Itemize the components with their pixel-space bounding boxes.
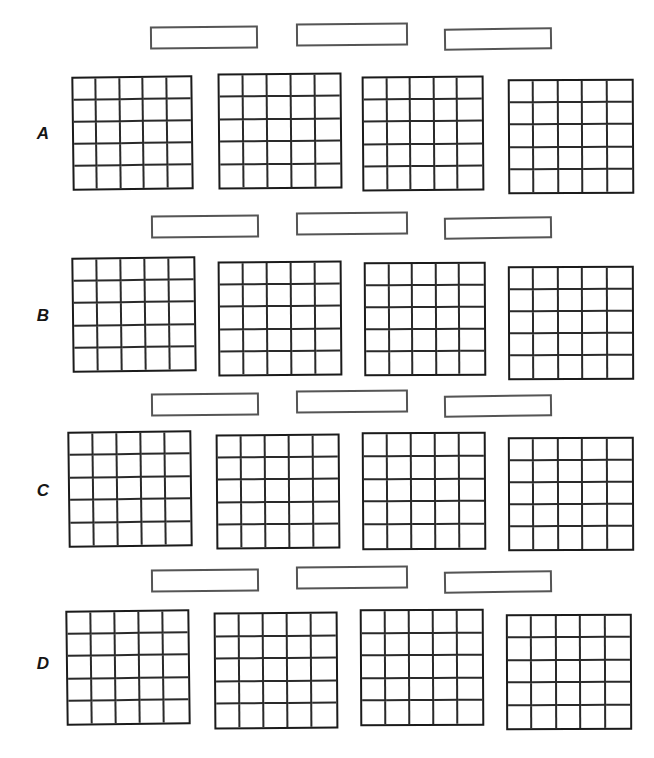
- grid-cell[interactable]: [240, 704, 264, 727]
- grid-cell[interactable]: [608, 312, 632, 334]
- grid-cell[interactable]: [458, 144, 482, 166]
- grid-cell[interactable]: [140, 656, 164, 678]
- grid-cell[interactable]: [559, 125, 584, 147]
- grid-cell[interactable]: [145, 259, 169, 281]
- grid-cell[interactable]: [216, 637, 240, 660]
- grid-cell[interactable]: [121, 122, 145, 144]
- caption-box-c-1[interactable]: [151, 392, 259, 416]
- grid-cell[interactable]: [216, 659, 240, 682]
- grid-cell[interactable]: [68, 657, 92, 679]
- grid-cell[interactable]: [312, 659, 336, 682]
- grid-cell[interactable]: [74, 144, 98, 166]
- grid-cell[interactable]: [583, 483, 607, 505]
- grid-cell[interactable]: [167, 121, 191, 143]
- grid-cell[interactable]: [73, 78, 97, 100]
- grid-cell[interactable]: [581, 661, 605, 683]
- grid-cell[interactable]: [74, 348, 98, 370]
- grid-cell[interactable]: [268, 97, 292, 120]
- grid-b-1[interactable]: [71, 256, 196, 373]
- grid-cell[interactable]: [216, 682, 240, 705]
- grid-c-4[interactable]: [508, 437, 634, 551]
- grid-cell[interactable]: [386, 679, 410, 702]
- grid-cell[interactable]: [410, 611, 434, 634]
- grid-cell[interactable]: [240, 682, 264, 705]
- grid-cell[interactable]: [220, 143, 244, 166]
- grid-cell[interactable]: [607, 81, 632, 103]
- grid-cell[interactable]: [436, 502, 460, 525]
- grid-cell[interactable]: [169, 258, 193, 280]
- grid-cell[interactable]: [434, 78, 458, 100]
- grid-cell[interactable]: [292, 119, 316, 142]
- grid-cell[interactable]: [122, 303, 146, 325]
- grid-cell[interactable]: [364, 525, 388, 548]
- grid-cell[interactable]: [168, 165, 192, 187]
- grid-cell[interactable]: [163, 611, 187, 633]
- grid-cell[interactable]: [167, 99, 191, 121]
- grid-cell[interactable]: [268, 164, 292, 187]
- grid-cell[interactable]: [146, 281, 170, 303]
- grid-cell[interactable]: [608, 125, 633, 147]
- grid-cell[interactable]: [557, 683, 581, 705]
- grid-cell[interactable]: [316, 263, 340, 285]
- grid-cell[interactable]: [292, 164, 316, 187]
- grid-cell[interactable]: [92, 679, 116, 701]
- grid-cell[interactable]: [605, 616, 629, 638]
- grid-cell[interactable]: [606, 705, 630, 727]
- grid-cell[interactable]: [458, 656, 482, 679]
- grid-cell[interactable]: [97, 259, 121, 281]
- grid-cell[interactable]: [218, 458, 242, 480]
- grid-cell[interactable]: [316, 329, 340, 351]
- grid-cell[interactable]: [413, 286, 437, 308]
- grid-cell[interactable]: [268, 352, 292, 374]
- grid-cell[interactable]: [92, 657, 116, 679]
- grid-cell[interactable]: [290, 458, 314, 480]
- grid-cell[interactable]: [92, 701, 116, 723]
- grid-cell[interactable]: [387, 100, 411, 122]
- grid-cell[interactable]: [508, 683, 532, 705]
- grid-cell[interactable]: [535, 356, 559, 378]
- grid-cell[interactable]: [510, 483, 534, 505]
- grid-cell[interactable]: [166, 477, 190, 500]
- grid-cell[interactable]: [121, 259, 145, 281]
- grid-cell[interactable]: [97, 122, 121, 144]
- grid-cell[interactable]: [460, 330, 484, 352]
- grid-cell[interactable]: [581, 683, 605, 705]
- grid-cell[interactable]: [532, 616, 556, 638]
- grid-cell[interactable]: [220, 352, 244, 374]
- grid-cell[interactable]: [94, 523, 118, 546]
- grid-a-3[interactable]: [362, 76, 485, 192]
- grid-cell[interactable]: [534, 103, 559, 125]
- grid-cell[interactable]: [97, 100, 121, 122]
- grid-cell[interactable]: [264, 659, 288, 682]
- grid-cell[interactable]: [314, 524, 338, 546]
- grid-cell[interactable]: [97, 78, 121, 100]
- grid-d-1[interactable]: [65, 609, 190, 726]
- grid-cell[interactable]: [117, 433, 141, 456]
- grid-cell[interactable]: [608, 505, 632, 527]
- grid-cell[interactable]: [410, 634, 434, 657]
- grid-cell[interactable]: [390, 330, 414, 352]
- grid-cell[interactable]: [290, 525, 314, 547]
- grid-cell[interactable]: [120, 78, 144, 100]
- grid-cell[interactable]: [559, 527, 583, 549]
- grid-c-2[interactable]: [216, 434, 341, 550]
- grid-cell[interactable]: [268, 120, 292, 143]
- caption-box-d-3[interactable]: [444, 570, 552, 594]
- grid-cell[interactable]: [68, 701, 92, 723]
- grid-cell[interactable]: [436, 457, 460, 480]
- grid-cell[interactable]: [292, 263, 316, 285]
- grid-cell[interactable]: [583, 505, 607, 527]
- grid-cell[interactable]: [411, 78, 435, 100]
- grid-cell[interactable]: [606, 661, 630, 683]
- grid-cell[interactable]: [218, 525, 242, 547]
- grid-cell[interactable]: [292, 97, 316, 120]
- grid-cell[interactable]: [412, 457, 436, 480]
- grid-cell[interactable]: [510, 527, 534, 549]
- grid-cell[interactable]: [312, 614, 336, 637]
- grid-cell[interactable]: [118, 478, 142, 501]
- grid-cell[interactable]: [116, 634, 140, 656]
- grid-cell[interactable]: [510, 148, 535, 170]
- grid-cell[interactable]: [218, 436, 242, 458]
- grid-cell[interactable]: [242, 480, 266, 502]
- grid-cell[interactable]: [510, 461, 534, 483]
